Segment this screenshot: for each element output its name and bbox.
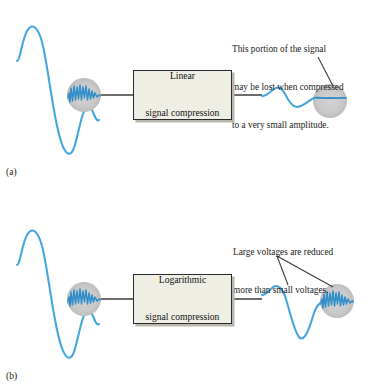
linear-compression-box: Linear signal compression <box>133 70 232 120</box>
panel-b-annotation-line-1: Large voltages are reduced <box>233 246 388 259</box>
panel-b-annotation: Large voltages are reduced more than sma… <box>233 221 388 322</box>
panel-b-annotation-line-2: more than small voltages. <box>233 284 388 297</box>
linear-compression-box-text: Linear signal compression <box>146 45 220 144</box>
logarithmic-compression-box-text: Logarithmic signal compression <box>146 249 220 348</box>
logarithmic-box-line-1: Logarithmic <box>146 274 220 286</box>
panel-a-annotation: This portion of the signal may be lost w… <box>232 18 388 157</box>
signal-compression-figure: This portion of the signal may be lost w… <box>0 0 388 388</box>
logarithmic-compression-box: Logarithmic signal compression <box>133 274 232 324</box>
panel-a-annotation-line-1: This portion of the signal <box>232 43 388 56</box>
panel-a-input-magnifier <box>67 78 101 112</box>
linear-box-line-1: Linear <box>146 70 220 82</box>
linear-box-line-2: signal compression <box>146 107 220 119</box>
panel-a-annotation-line-2: may be lost when compressed <box>232 81 388 94</box>
logarithmic-box-line-2: signal compression <box>146 311 220 323</box>
panel-label-b: (b) <box>6 371 17 381</box>
panel-b-input-magnifier <box>67 282 101 316</box>
panel-label-a: (a) <box>6 167 17 177</box>
panel-a-annotation-line-3: to a very small amplitude. <box>232 119 388 132</box>
